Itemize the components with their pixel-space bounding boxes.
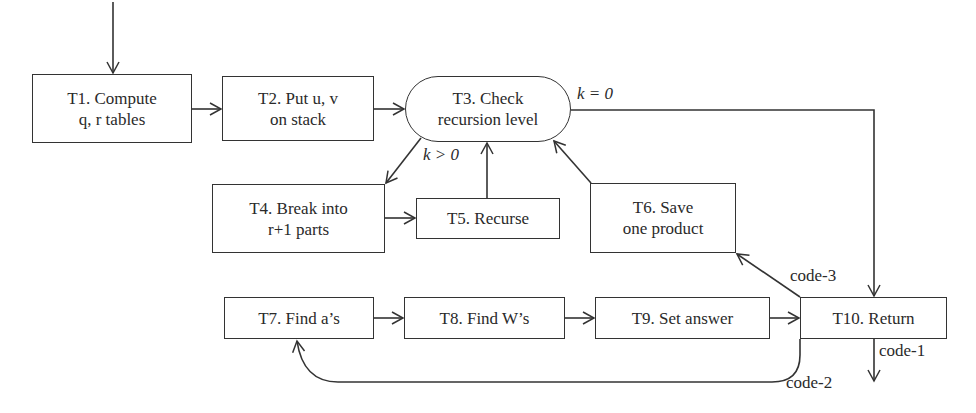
edge-t6-t3 bbox=[554, 141, 591, 183]
edge-label-code-3: code-3 bbox=[790, 266, 836, 286]
node-t8: T8. Find W’s bbox=[404, 297, 565, 339]
node-t9: T9. Set answer bbox=[595, 297, 770, 339]
node-t6-line1: T6. Save bbox=[633, 197, 693, 218]
node-t1-line1: T1. Compute bbox=[67, 88, 157, 109]
node-t1: T1. Compute q, r tables bbox=[32, 74, 192, 143]
edge-label-code-1: code-1 bbox=[879, 341, 925, 361]
node-t2-line1: T2. Put u, v bbox=[258, 88, 338, 109]
edge-t3-t4 bbox=[386, 138, 421, 183]
node-t5: T5. Recurse bbox=[416, 198, 560, 239]
node-t5-line1: T5. Recurse bbox=[447, 208, 529, 229]
edge-t10-t7 bbox=[297, 339, 800, 382]
node-t10: T10. Return bbox=[800, 297, 947, 339]
node-t6: T6. Save one product bbox=[590, 183, 736, 253]
node-t7-line1: T7. Find a’s bbox=[258, 308, 340, 329]
node-t8-line1: T8. Find W’s bbox=[440, 308, 530, 329]
node-t1-line2: q, r tables bbox=[79, 109, 146, 130]
node-t3: T3. Check recursion level bbox=[405, 76, 571, 142]
node-t4: T4. Break into r+1 parts bbox=[212, 184, 385, 253]
node-t4-line1: T4. Break into bbox=[249, 198, 348, 219]
node-t3-line2: recursion level bbox=[438, 109, 539, 130]
node-t6-line2: one product bbox=[623, 218, 704, 239]
edge-label-code-2: code-2 bbox=[786, 373, 832, 393]
edge-label-k-eq-0: k = 0 bbox=[577, 84, 613, 104]
node-t9-line1: T9. Set answer bbox=[632, 308, 734, 329]
node-t2-line2: on stack bbox=[270, 109, 326, 130]
node-t10-line1: T10. Return bbox=[832, 308, 914, 329]
node-t4-line2: r+1 parts bbox=[268, 219, 329, 240]
node-t3-line1: T3. Check bbox=[453, 88, 524, 109]
node-t7: T7. Find a’s bbox=[224, 297, 374, 339]
edge-label-k-gt-0: k > 0 bbox=[423, 145, 459, 165]
node-t2: T2. Put u, v on stack bbox=[222, 76, 374, 141]
